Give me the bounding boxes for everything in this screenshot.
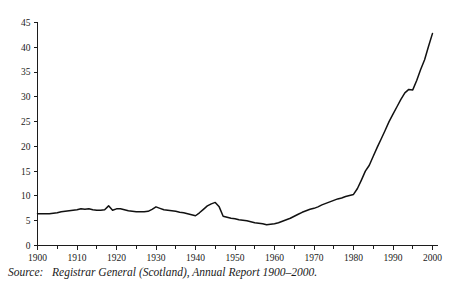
- x-tick-label: 1960: [265, 253, 284, 263]
- y-tick-label: 10: [21, 191, 31, 201]
- x-tick-label: 1910: [68, 253, 87, 263]
- y-tick-label: 25: [21, 117, 31, 127]
- y-tick-label: 5: [26, 216, 31, 226]
- y-tick-label: 0: [26, 241, 31, 251]
- y-tick-label: 15: [21, 167, 31, 177]
- line-chart: 051015202530354045 190019101920193019401…: [0, 0, 450, 265]
- y-tick-label: 40: [21, 43, 31, 53]
- x-tick-label: 2000: [423, 253, 442, 263]
- x-tick-label: 1940: [186, 253, 205, 263]
- x-tick-label: 1950: [226, 253, 245, 263]
- y-axis: 051015202530354045: [21, 18, 38, 251]
- x-axis: 1900191019201930194019501960197019801990…: [28, 246, 442, 264]
- data-series-line: [38, 33, 433, 224]
- source-caption: Source:Registrar General (Scotland), Ann…: [8, 266, 448, 278]
- y-tick-label: 45: [21, 18, 31, 28]
- x-tick-label: 1990: [384, 253, 403, 263]
- x-tick-label: 1930: [147, 253, 166, 263]
- source-text: Registrar General (Scotland), Annual Rep…: [52, 266, 317, 278]
- figure-container: 051015202530354045 190019101920193019401…: [0, 0, 450, 287]
- y-tick-label: 35: [21, 67, 31, 77]
- source-label: Source:: [8, 266, 52, 278]
- y-tick-label: 30: [21, 92, 31, 102]
- x-tick-label: 1900: [28, 253, 47, 263]
- x-tick-label: 1920: [107, 253, 126, 263]
- x-tick-label: 1970: [305, 253, 324, 263]
- x-tick-label: 1980: [344, 253, 363, 263]
- y-tick-label: 20: [21, 142, 31, 152]
